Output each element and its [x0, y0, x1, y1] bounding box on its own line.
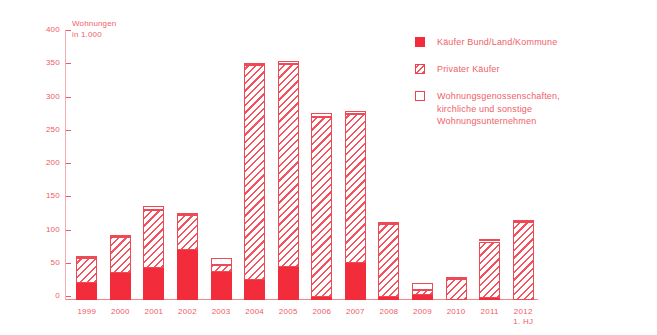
open-square-icon: [415, 91, 425, 101]
bar-segment: [412, 295, 433, 300]
bar-group[interactable]: [143, 34, 164, 300]
bar-segment: [244, 63, 265, 65]
bar-group[interactable]: [311, 34, 332, 300]
bar-segment: [378, 222, 399, 224]
y-axis-label-slot: 150: [22, 191, 60, 201]
bar-segment: [446, 279, 467, 300]
y-axis-label-slot: 250: [22, 125, 60, 135]
bar-group[interactable]: [345, 34, 366, 300]
bar-segment: [110, 237, 131, 274]
bar-group[interactable]: [76, 34, 97, 300]
bar-segment: [345, 111, 366, 114]
bar-segment: [278, 61, 299, 64]
legend-item-label: Wohnungsgenossenschaften, kirchliche und…: [437, 90, 650, 128]
bar-group[interactable]: [378, 34, 399, 300]
y-axis-label-slot: 100: [22, 225, 60, 235]
bar-segment: [513, 222, 534, 300]
y-axis-tick-label: 200: [26, 158, 60, 167]
y-axis-label-slot: 400: [22, 25, 60, 35]
bar-group[interactable]: [177, 34, 198, 300]
legend-item-label: Käufer Bund/Land/Kommune: [437, 36, 650, 49]
y-axis-label-slot: 200: [22, 158, 60, 168]
bar-segment: [143, 268, 164, 300]
bar-segment: [311, 117, 332, 297]
bar-segment: [311, 113, 332, 117]
bar-segment: [446, 277, 467, 279]
bar-segment: [211, 265, 232, 272]
bar-segment: [110, 235, 131, 237]
bar-segment: [345, 114, 366, 264]
y-axis-tick-label: 350: [26, 58, 60, 67]
y-axis-tick-label: 100: [26, 225, 60, 234]
bar-group[interactable]: [110, 34, 131, 300]
housing-sales-bar-chart: Wohnungen in 1.000 050100150200250300350…: [0, 0, 657, 335]
bar-segment: [244, 65, 265, 280]
y-axis-tick-label: 150: [26, 191, 60, 200]
bar-segment: [76, 258, 97, 283]
bar-segment: [110, 273, 131, 300]
bar-segment: [76, 283, 97, 300]
y-axis-label-slot: 0: [22, 291, 60, 301]
bar-segment: [211, 258, 232, 265]
y-axis-label-slot: 300: [22, 92, 60, 102]
bar-segment: [345, 263, 366, 300]
bar-segment: [177, 250, 198, 300]
bar-segment: [143, 206, 164, 209]
y-axis-tick-label: 250: [26, 125, 60, 134]
bar-group[interactable]: [211, 34, 232, 300]
bar-segment: [278, 267, 299, 300]
bar-segment: [479, 239, 500, 241]
legend-item-label: Privater Käufer: [437, 63, 650, 76]
bar-segment: [311, 297, 332, 300]
bar-segment: [412, 290, 433, 295]
y-axis-tick-label: 300: [26, 92, 60, 101]
y-axis-tick-label: 400: [26, 25, 60, 34]
bar-segment: [244, 280, 265, 300]
legend-item-privater-kaeufer: Privater Käufer: [415, 63, 650, 77]
y-axis-tick-label: 50: [26, 258, 60, 267]
x-axis-tick-label: 2012 1. HJ: [499, 307, 547, 327]
legend-item-wohnungsgenossenschaften: Wohnungsgenossenschaften, kirchliche und…: [415, 90, 650, 128]
chart-legend: Käufer Bund/Land/Kommune Privater Käufer…: [415, 36, 650, 141]
bar-segment: [177, 213, 198, 215]
bar-segment: [479, 298, 500, 300]
bar-group[interactable]: [244, 34, 265, 300]
bar-segment: [278, 64, 299, 267]
y-axis-label-slot: 350: [22, 58, 60, 68]
solid-square-icon: [415, 37, 425, 47]
y-axis-label-slot: 50: [22, 258, 60, 268]
legend-item-kaeufer-bund-land-kommune: Käufer Bund/Land/Kommune: [415, 36, 650, 50]
bar-segment: [479, 242, 500, 299]
bar-segment: [378, 297, 399, 300]
bar-segment: [143, 210, 164, 269]
hatched-square-icon: [415, 64, 425, 74]
bar-group[interactable]: [278, 34, 299, 300]
y-axis-tick-label: 0: [26, 291, 60, 300]
bar-segment: [177, 215, 198, 250]
bar-segment: [211, 272, 232, 300]
bar-segment: [76, 256, 97, 258]
bar-segment: [378, 224, 399, 297]
bar-segment: [513, 220, 534, 222]
bar-segment: [412, 283, 433, 290]
